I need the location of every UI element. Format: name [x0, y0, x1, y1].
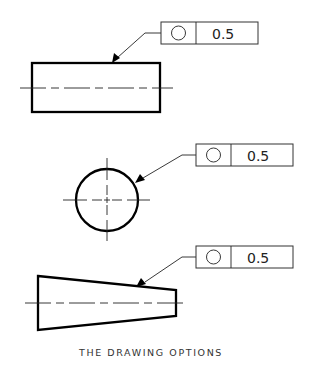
cylinder-outline	[32, 63, 160, 112]
circle-view	[63, 158, 150, 241]
leader-1	[112, 33, 161, 63]
cylinder-view	[20, 63, 173, 112]
feature-control-frame-3: 0.5	[196, 246, 293, 268]
leader-3	[136, 257, 196, 287]
feature-control-frame-1: 0.5	[161, 22, 258, 44]
drawing-canvas: 0.5 0.5 0.5	[0, 0, 315, 384]
leader-2	[135, 155, 196, 183]
tolerance-value: 0.5	[212, 26, 234, 42]
cone-view	[25, 276, 187, 330]
tolerance-value: 0.5	[247, 148, 269, 164]
arrowhead-icon	[135, 174, 145, 183]
figure-caption: THE DRAWING OPTIONS	[0, 347, 302, 358]
arrowhead-icon	[112, 53, 120, 63]
feature-control-frame-2: 0.5	[196, 144, 293, 166]
tolerance-value: 0.5	[247, 250, 269, 266]
